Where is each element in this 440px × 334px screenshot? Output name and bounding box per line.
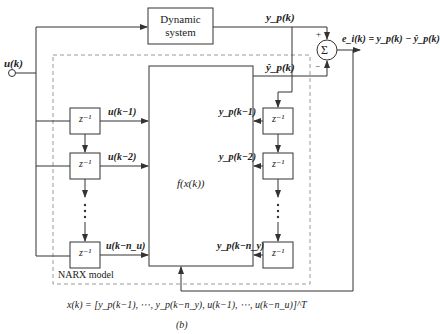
delay-label-left-2: z⁻¹ bbox=[79, 159, 91, 169]
sum-symbol: Σ bbox=[321, 44, 328, 56]
delay-label-right-2: z⁻¹ bbox=[272, 159, 284, 169]
narx-model-label: NARX model bbox=[58, 270, 114, 280]
model-output-label: ŷ_p(k) bbox=[266, 62, 295, 73]
regressor-equation: x(k) = [y_p(k−1), ⋯, y_p(k−n_y), u(k−1),… bbox=[67, 300, 307, 310]
tap-label-y-2: y_p(k−2) bbox=[219, 152, 256, 162]
tap-label-u-2: u(k−2) bbox=[108, 152, 136, 162]
sum-minus-sign: − bbox=[315, 62, 320, 71]
error-equation: e_i(k) = y_p(k) − ŷ_p(k) bbox=[342, 34, 440, 44]
function-block-label: f(x(k)) bbox=[177, 178, 204, 189]
input-label: u(k) bbox=[4, 58, 23, 69]
input-terminal-icon bbox=[9, 70, 16, 77]
figure-caption: (b) bbox=[176, 320, 188, 330]
function-block-box bbox=[149, 66, 253, 266]
tap-label-y-1: y_p(k−1) bbox=[219, 107, 256, 117]
delay-label-left-n: z⁻¹ bbox=[79, 248, 91, 258]
sum-plus-sign: + bbox=[316, 30, 321, 39]
plant-output-label: y_p(k) bbox=[266, 12, 295, 23]
delay-label-left-1: z⁻¹ bbox=[79, 114, 91, 124]
delay-label-right-n: z⁻¹ bbox=[272, 248, 284, 258]
tap-label-u-n: u(k−n_u) bbox=[106, 241, 145, 251]
tap-label-y-n: y_p(k−n_y) bbox=[217, 241, 264, 251]
tap-label-u-1: u(k−1) bbox=[108, 107, 136, 117]
dynamic-system-label: Dynamicsystem bbox=[148, 8, 213, 44]
delay-label-right-1: z⁻¹ bbox=[272, 114, 284, 124]
